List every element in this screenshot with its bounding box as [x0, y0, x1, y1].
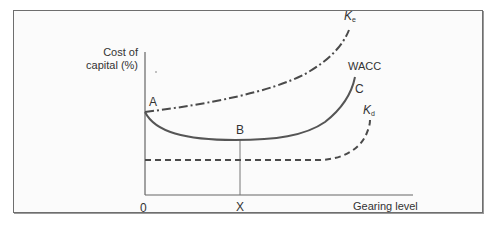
- cost-of-capital-plot: [0, 0, 496, 229]
- point-b-label: B: [236, 124, 244, 136]
- ke-label: Ke: [344, 10, 356, 23]
- ke-symbol: K: [344, 9, 352, 23]
- ke-curve: [145, 30, 349, 112]
- wacc-label: WACC: [348, 61, 381, 72]
- y-axis-label-line1: Cost of: [78, 46, 138, 59]
- point-c-label: C: [355, 83, 364, 95]
- point-a-label: A: [149, 96, 157, 108]
- x-marker-label: X: [236, 201, 244, 213]
- stray-dot: [155, 71, 157, 73]
- y-axis-label: Cost of capital (%): [78, 46, 138, 72]
- kd-symbol: K: [363, 103, 371, 117]
- ke-subscript: e: [352, 16, 356, 23]
- origin-label: 0: [140, 202, 147, 214]
- kd-label: Kd: [363, 104, 375, 117]
- x-axis-label: Gearing level: [353, 201, 418, 212]
- wacc-curve: [145, 77, 355, 140]
- kd-subscript: d: [371, 110, 375, 117]
- y-axis-label-line2: capital (%): [78, 59, 138, 72]
